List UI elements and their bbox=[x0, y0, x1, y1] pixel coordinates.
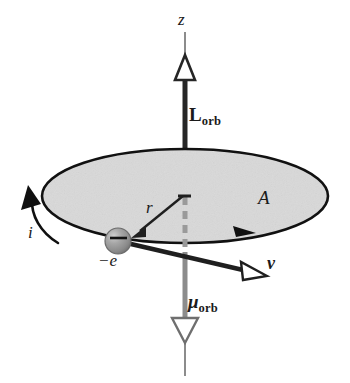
current-label: i bbox=[28, 224, 33, 241]
magnetic-moment-arrowhead bbox=[172, 318, 198, 343]
angular-momentum-subscript: orb bbox=[202, 114, 221, 128]
radius-label: r bbox=[146, 199, 153, 216]
orbital-magnetic-moment-diagram bbox=[0, 0, 350, 383]
area-label: A bbox=[258, 188, 270, 207]
electron-charge-label: −e bbox=[98, 252, 117, 269]
z-axis-label: z bbox=[178, 11, 185, 28]
velocity-label: v bbox=[267, 254, 275, 272]
angular-momentum-arrowhead bbox=[175, 55, 195, 80]
velocity-vector-arrowhead bbox=[241, 262, 267, 280]
angular-momentum-symbol: L bbox=[189, 104, 202, 125]
current-arc-arrowhead bbox=[21, 185, 41, 210]
magnetic-moment-label: μorb bbox=[188, 292, 218, 311]
angular-momentum-label: Lorb bbox=[189, 105, 221, 124]
magnetic-moment-subscript: orb bbox=[199, 301, 218, 315]
magnetic-moment-symbol: μ bbox=[188, 291, 199, 312]
velocity-vector-shaft bbox=[118, 241, 243, 270]
physics-figure: z Lorb μorb A r i v −e bbox=[0, 0, 350, 383]
